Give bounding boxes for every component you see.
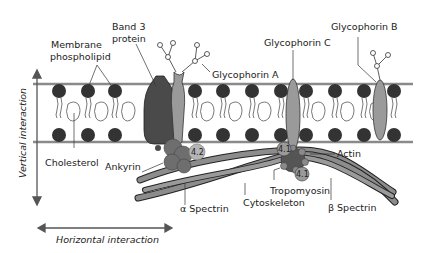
label-ankyrin: Ankyrin [105, 161, 141, 172]
label-band3-1: Band 3 [112, 21, 145, 32]
horizontal-interaction-arrow [38, 224, 172, 232]
label-membrane-phospholipid-1: Membrane [51, 39, 102, 50]
label-band3-2: protein [112, 33, 146, 44]
label-vertical-interaction: Vertical interaction [17, 88, 28, 178]
glycophorin-c [286, 79, 300, 151]
glycophorin-b-sugars [371, 51, 391, 81]
label-cytoskeleton: Cytoskeleton [243, 197, 305, 208]
lipid-heads-outer [52, 84, 401, 98]
label-alpha-spectrin: α Spectrin [180, 203, 229, 214]
label-glycophorin-c: Glycophorin C [264, 37, 331, 48]
leader-lines [74, 37, 376, 205]
glycophorin-a [171, 72, 184, 144]
label-beta-spectrin: β Spectrin [328, 202, 377, 213]
label-protein-4-1a: 4.1 [278, 145, 291, 154]
lipid-heads-inner [52, 128, 401, 142]
label-tropomyosin: Tropomyosin [269, 185, 330, 196]
label-actin: Actin [337, 148, 361, 159]
lipid-bilayer [52, 84, 401, 142]
label-protein-4-2: 4.2 [191, 148, 204, 157]
label-membrane-phospholipid-2: phospholipid [50, 51, 111, 62]
vertical-interaction-arrow [33, 70, 41, 205]
membrane-diagram: Membrane phospholipid Band 3 protein Gly… [0, 0, 442, 253]
ankyrin [164, 139, 192, 173]
label-horizontal-interaction: Horizontal interaction [56, 234, 159, 245]
label-protein-4-1b: 4.1 [296, 170, 309, 179]
glycophorin-b [373, 80, 387, 140]
label-glycophorin-b: Glycophorin B [331, 21, 398, 32]
label-cholesterol: Cholesterol [45, 157, 99, 168]
label-glycophorin-a: Glycophorin A [212, 69, 279, 80]
band3-protein [144, 76, 176, 144]
glycophorin-a-sugars [158, 41, 210, 73]
